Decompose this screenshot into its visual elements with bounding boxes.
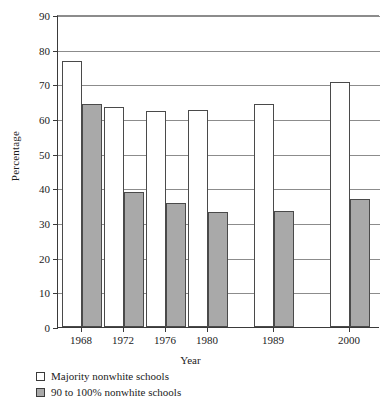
x-axis-label-1980: 1980 bbox=[196, 334, 218, 346]
legend-swatch-majority-nonwhite bbox=[36, 372, 45, 381]
y-tick-20 bbox=[53, 259, 58, 260]
y-tick-90 bbox=[53, 16, 58, 17]
x-tick-1989 bbox=[273, 327, 274, 332]
legend-label-2: 90 to 100% nonwhite schools bbox=[51, 386, 181, 398]
bar-1989-series-1 bbox=[254, 104, 274, 327]
y-tick-70 bbox=[53, 85, 58, 86]
bar-1980-series-2 bbox=[208, 212, 228, 327]
x-axis-label-1976: 1976 bbox=[154, 334, 176, 346]
x-tick-1968 bbox=[81, 327, 82, 332]
legend-label-1: Majority nonwhite schools bbox=[51, 370, 169, 382]
y-tick-40 bbox=[53, 189, 58, 190]
x-axis-title: Year bbox=[0, 354, 381, 366]
y-axis-title: Percentage bbox=[9, 106, 21, 206]
legend-swatch-ninety-to-hundred-nonwhite bbox=[36, 388, 45, 397]
bar-1968-series-1 bbox=[62, 61, 82, 327]
x-tick-1980 bbox=[207, 327, 208, 332]
y-axis-label-40: 40 bbox=[39, 183, 50, 195]
bar-1989-series-2 bbox=[274, 211, 294, 327]
bar-1980-series-1 bbox=[188, 110, 208, 327]
bar-1968-series-2 bbox=[82, 104, 102, 327]
x-axis-label-1989: 1989 bbox=[262, 334, 284, 346]
y-axis-label-30: 30 bbox=[39, 218, 50, 230]
y-tick-60 bbox=[53, 120, 58, 121]
bar-1972-series-1 bbox=[104, 107, 124, 327]
y-tick-50 bbox=[53, 155, 58, 156]
y-tick-10 bbox=[53, 293, 58, 294]
y-axis-label-60: 60 bbox=[39, 114, 50, 126]
y-axis-label-90: 90 bbox=[39, 10, 50, 22]
x-tick-1976 bbox=[165, 327, 166, 332]
x-tick-2000 bbox=[349, 327, 350, 332]
gridline-80 bbox=[58, 51, 380, 52]
bar-chart-figure: Percentage 0102030405060708090 196819721… bbox=[0, 0, 381, 401]
bar-2000-series-2 bbox=[350, 199, 370, 327]
legend-item-1: Majority nonwhite schools bbox=[36, 368, 181, 384]
bar-2000-series-1 bbox=[330, 82, 350, 327]
bar-1976-series-1 bbox=[146, 111, 166, 327]
y-axis-label-80: 80 bbox=[39, 45, 50, 57]
x-axis-label-1972: 1972 bbox=[112, 334, 134, 346]
plot-area: 0102030405060708090 bbox=[57, 15, 379, 327]
y-tick-30 bbox=[53, 224, 58, 225]
y-axis-label-10: 10 bbox=[39, 287, 50, 299]
legend-item-2: 90 to 100% nonwhite schools bbox=[36, 384, 181, 400]
y-axis-label-70: 70 bbox=[39, 79, 50, 91]
x-axis-line bbox=[57, 327, 379, 328]
gridline-90 bbox=[58, 16, 380, 17]
bar-1976-series-2 bbox=[166, 203, 186, 327]
x-axis-label-1968: 1968 bbox=[70, 334, 92, 346]
y-axis-label-0: 0 bbox=[45, 322, 51, 334]
x-axis-label-2000: 2000 bbox=[338, 334, 360, 346]
chart-legend: Majority nonwhite schools90 to 100% nonw… bbox=[36, 368, 181, 400]
bar-1972-series-2 bbox=[124, 192, 144, 327]
y-axis-label-50: 50 bbox=[39, 149, 50, 161]
x-tick-1972 bbox=[123, 327, 124, 332]
y-axis-label-20: 20 bbox=[39, 253, 50, 265]
y-tick-0 bbox=[53, 328, 58, 329]
y-tick-80 bbox=[53, 51, 58, 52]
